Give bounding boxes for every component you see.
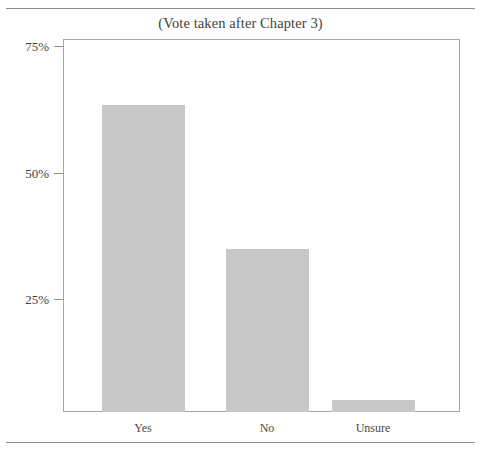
- y-axis-label-25: 25%: [0, 293, 49, 306]
- y-axis-tick-75: [54, 46, 63, 47]
- bar-unsure: [332, 400, 415, 412]
- x-axis-label-unsure: Unsure: [323, 421, 423, 435]
- x-axis-label-yes: Yes: [93, 421, 193, 435]
- y-axis-tick-25: [54, 299, 63, 300]
- top-divider-rule: [6, 8, 475, 9]
- x-axis-label-no: No: [217, 421, 317, 435]
- bottom-divider-rule: [6, 442, 475, 443]
- y-axis-tick-50: [54, 173, 63, 174]
- y-axis-label-50: 50%: [0, 167, 49, 180]
- chart-title: (Vote taken after Chapter 3): [0, 14, 481, 33]
- figure: (Vote taken after Chapter 3) 75% 50% 25%…: [0, 0, 481, 451]
- y-axis-label-75: 75%: [0, 40, 49, 53]
- bar-yes: [102, 105, 185, 412]
- bar-no: [226, 249, 309, 412]
